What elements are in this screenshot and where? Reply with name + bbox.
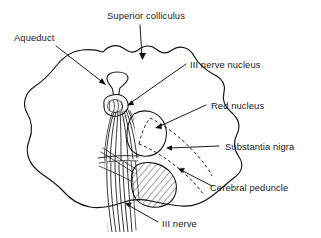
anatomical-diagram-figure: Aqueduct Superior colliculus III nerve n… xyxy=(0,0,321,238)
label-cerebral-peduncle: Cerebral peduncle xyxy=(210,182,288,193)
label-substantia-nigra: Substantia nigra xyxy=(225,141,295,152)
label-superior-colliculus: Superior colliculus xyxy=(107,10,185,21)
label-third-nerve-nucleus: III nerve nucleus xyxy=(190,59,261,70)
label-red-nucleus: Red nucleus xyxy=(211,100,264,111)
midbrain-diagram-canvas: Aqueduct Superior colliculus III nerve n… xyxy=(0,0,321,238)
label-aqueduct: Aqueduct xyxy=(14,32,55,43)
label-third-nerve: III nerve xyxy=(162,218,197,229)
